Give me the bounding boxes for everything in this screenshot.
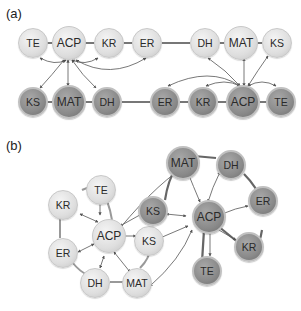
node-mat: MAT bbox=[224, 26, 258, 60]
node-b-kr: KR bbox=[48, 190, 78, 220]
node-b-mat: MAT bbox=[122, 268, 152, 298]
node-ks: KS bbox=[262, 28, 292, 58]
node-acp: ACP bbox=[52, 26, 86, 60]
node-b-te: TE bbox=[86, 175, 116, 205]
node-b-dh: DH bbox=[80, 268, 110, 298]
node-b-dh-dark: DH bbox=[216, 150, 246, 180]
node-ks-dark: KS bbox=[18, 87, 48, 117]
node-dh-dark: DH bbox=[92, 87, 122, 117]
node-er: ER bbox=[132, 28, 162, 58]
node-b-te-dark: TE bbox=[192, 256, 222, 286]
node-te: TE bbox=[18, 28, 48, 58]
node-acp-dark: ACP bbox=[226, 85, 260, 119]
node-b-acp-dark: ACP bbox=[192, 200, 226, 234]
node-b-kr-dark: KR bbox=[234, 232, 264, 262]
node-er-dark: ER bbox=[150, 87, 180, 117]
node-b-ks-dark: KS bbox=[138, 196, 168, 226]
node-dh: DH bbox=[190, 28, 220, 58]
node-kr-dark: KR bbox=[188, 87, 218, 117]
node-b-acp: ACP bbox=[92, 219, 126, 253]
node-b-er: ER bbox=[48, 238, 78, 268]
node-b-er-dark: ER bbox=[248, 186, 278, 216]
node-te-dark: TE bbox=[266, 87, 296, 117]
node-b-mat-dark: MAT bbox=[166, 146, 200, 180]
node-b-ks: KS bbox=[134, 226, 164, 256]
node-mat-dark: MAT bbox=[52, 85, 86, 119]
node-kr: KR bbox=[94, 28, 124, 58]
